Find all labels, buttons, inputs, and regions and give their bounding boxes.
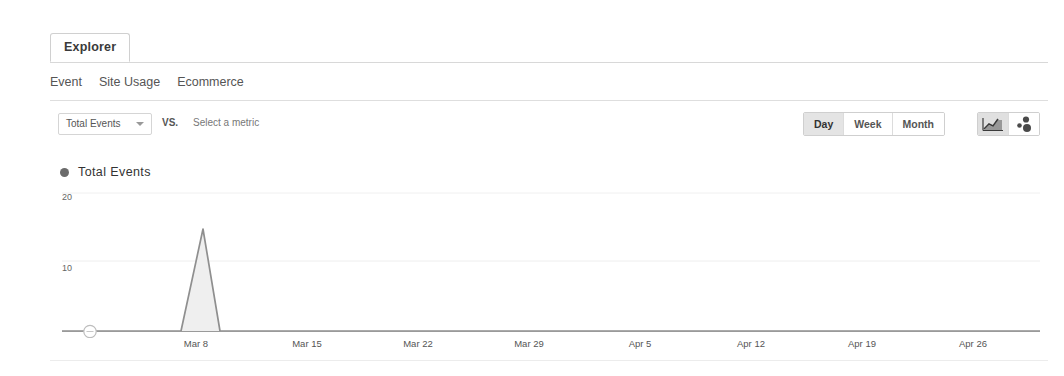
line-chart-icon — [978, 113, 1008, 135]
tabstrip-divider — [50, 62, 1048, 63]
chart-canvas — [50, 188, 1048, 338]
granularity-button-day[interactable]: Day — [804, 113, 844, 135]
explorer-report-panel: Explorer Event Site Usage Ecommerce Tota… — [0, 0, 1064, 376]
granularity-button-month[interactable]: Month — [893, 113, 945, 135]
x-axis-tick-mar-8: Mar 8 — [184, 338, 208, 349]
legend-marker-icon — [60, 168, 69, 177]
chevron-down-icon — [136, 122, 144, 126]
x-axis-tick-apr-12: Apr 12 — [737, 338, 765, 349]
legend-series-label: Total Events — [78, 165, 151, 179]
chart-type-button-line[interactable] — [978, 113, 1009, 135]
secondary-nav: Event Site Usage Ecommerce — [50, 74, 1048, 100]
chart-type-button-group — [977, 112, 1040, 136]
primary-metric-select[interactable]: Total Events — [58, 113, 152, 135]
subnav-divider — [50, 100, 1048, 101]
chart-type-button-motion[interactable] — [1009, 113, 1039, 135]
x-axis-tick-mar-15: Mar 15 — [292, 338, 322, 349]
motion-chart-icon — [1009, 113, 1039, 135]
granularity-button-group: Day Week Month — [803, 112, 945, 136]
x-axis-tick-apr-19: Apr 19 — [848, 338, 876, 349]
tab-explorer[interactable]: Explorer — [50, 33, 130, 62]
subnav-item-site-usage[interactable]: Site Usage — [99, 74, 160, 90]
primary-tabstrip: Explorer — [50, 33, 1048, 63]
secondary-metric-select[interactable]: Select a metric — [193, 113, 259, 133]
x-axis-tick-mar-22: Mar 22 — [403, 338, 433, 349]
x-axis-tick-mar-29: Mar 29 — [514, 338, 544, 349]
chart-legend: Total Events — [60, 165, 151, 179]
chart-controls-row: Total Events VS. Select a metric Day Wee… — [50, 110, 1048, 146]
vs-label: VS. — [162, 113, 178, 133]
primary-metric-label: Total Events — [66, 114, 120, 134]
x-axis-tick-apr-26: Apr 26 — [959, 338, 987, 349]
subnav-item-event[interactable]: Event — [50, 74, 82, 90]
subnav-item-ecommerce[interactable]: Ecommerce — [177, 74, 244, 90]
series-area-fill — [62, 229, 1040, 331]
granularity-button-week[interactable]: Week — [844, 113, 892, 135]
events-area-chart — [50, 188, 1048, 338]
x-axis-tick-apr-5: Apr 5 — [629, 338, 652, 349]
panel-bottom-divider — [50, 360, 1048, 361]
